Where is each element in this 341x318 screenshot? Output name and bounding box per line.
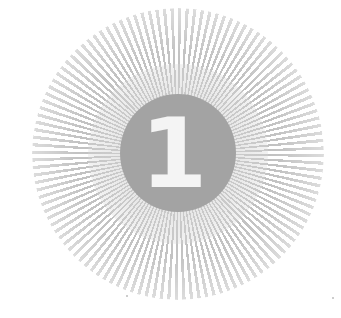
number-badge: 1: [120, 94, 236, 212]
speck-dot: [332, 297, 334, 299]
speck-dot: [126, 295, 128, 297]
badge-number: 1: [141, 106, 208, 202]
